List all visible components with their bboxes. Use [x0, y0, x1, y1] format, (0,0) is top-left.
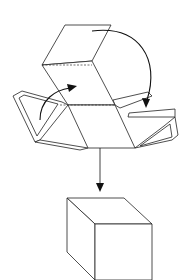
left-flap-lower [35, 140, 88, 150]
cube-net-folding-diagram [0, 0, 183, 280]
diagram-svg [0, 0, 183, 280]
cube-front-face [95, 224, 152, 280]
net-middle-face [42, 61, 115, 105]
right-tab [128, 109, 175, 117]
cube-net [13, 25, 178, 150]
net-bottom-face [68, 105, 135, 148]
arrowhead-right-icon [142, 98, 150, 108]
folded-cube [67, 198, 152, 280]
arrowhead-down-icon [96, 183, 104, 192]
net-top-face [42, 25, 111, 65]
